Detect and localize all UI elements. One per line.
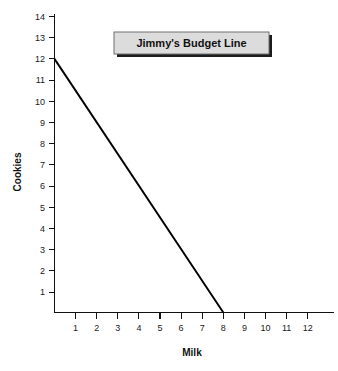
y-tick-label: 10 bbox=[35, 97, 45, 107]
x-tick-label: 12 bbox=[303, 323, 313, 333]
y-tick-label: 14 bbox=[35, 12, 45, 22]
y-tick-label: 3 bbox=[40, 245, 45, 255]
x-tick-label: 8 bbox=[221, 323, 226, 333]
x-tick-label: 3 bbox=[115, 323, 120, 333]
x-tick-label: 11 bbox=[282, 323, 291, 333]
y-tick-label: 1 bbox=[40, 287, 45, 297]
y-tick-label: 6 bbox=[40, 181, 45, 191]
y-tick-label: 4 bbox=[40, 224, 45, 234]
chart-title-box: Jimmy's Budget Line bbox=[114, 32, 272, 57]
x-tick-label: 9 bbox=[242, 323, 247, 333]
budget-line-chart: 14 13 12 11 10 9 8 7 6 5 4 3 2 1 bbox=[0, 0, 338, 371]
y-axis-title: Cookies bbox=[12, 152, 23, 191]
y-tick-label: 7 bbox=[40, 160, 45, 170]
x-tick-label: 4 bbox=[136, 323, 141, 333]
y-tick-label: 12 bbox=[35, 54, 45, 64]
x-tick-label: 7 bbox=[200, 323, 205, 333]
y-tick-label: 8 bbox=[40, 139, 45, 149]
x-tick-label: 10 bbox=[260, 323, 270, 333]
y-tick-label: 5 bbox=[40, 203, 45, 213]
x-tick-label: 1 bbox=[73, 323, 78, 333]
chart-figure: 14 13 12 11 10 9 8 7 6 5 4 3 2 1 bbox=[0, 0, 338, 371]
x-axis-title: Milk bbox=[182, 347, 202, 358]
x-tick-label: 2 bbox=[94, 323, 99, 333]
x-tick-label: 6 bbox=[179, 323, 184, 333]
y-tick-label: 13 bbox=[35, 33, 45, 43]
y-tick-label: 9 bbox=[40, 118, 45, 128]
x-tick-label: 5 bbox=[157, 323, 162, 333]
chart-title-text: Jimmy's Budget Line bbox=[136, 37, 246, 49]
y-tick-label: 2 bbox=[40, 266, 45, 276]
y-tick-label: 11 bbox=[36, 75, 45, 85]
